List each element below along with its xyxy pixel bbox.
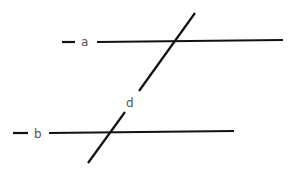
line-b bbox=[49, 131, 234, 133]
label-b: b bbox=[34, 127, 42, 141]
parallel-lines-diagram: a b d bbox=[0, 0, 290, 175]
transversal-d-upper bbox=[139, 13, 195, 91]
label-d: d bbox=[126, 96, 134, 110]
transversal-d-lower bbox=[88, 112, 125, 163]
line-a bbox=[97, 40, 283, 42]
label-a: a bbox=[81, 35, 88, 49]
